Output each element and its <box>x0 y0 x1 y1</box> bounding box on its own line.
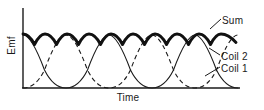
x-axis-label: Time <box>104 92 152 103</box>
emf-waveform-figure: Emf Time Sum Coil 2 Coil 1 <box>0 0 264 110</box>
sum-leader-line <box>210 19 221 29</box>
series-label-coil1: Coil 1 <box>221 63 248 74</box>
y-axis-label: Emf <box>6 29 17 63</box>
coil2-leader-line <box>209 48 220 55</box>
series-label-sum: Sum <box>222 15 243 26</box>
series-label-coil2: Coil 2 <box>221 51 248 62</box>
annotation-leaders <box>205 19 221 76</box>
